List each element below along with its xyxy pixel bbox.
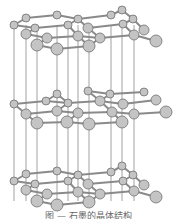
carbon-atom xyxy=(139,25,149,35)
bond xyxy=(110,92,144,94)
carbon-atom xyxy=(64,99,72,107)
carbon-atom xyxy=(129,109,139,119)
carbon-atom xyxy=(140,88,148,96)
carbon-atom xyxy=(107,168,115,176)
carbon-atom xyxy=(118,99,128,109)
carbon-atom xyxy=(150,35,162,47)
carbon-atom xyxy=(51,43,63,55)
carbon-atom xyxy=(42,33,52,43)
carbon-atom xyxy=(64,177,72,185)
carbon-atom xyxy=(95,189,105,199)
carbon-atom xyxy=(10,21,18,29)
carbon-atom xyxy=(22,14,30,22)
layer-middle xyxy=(10,87,172,130)
carbon-atom xyxy=(73,108,83,118)
carbon-atom xyxy=(61,116,73,128)
bond xyxy=(26,171,57,174)
carbon-atom xyxy=(53,90,61,98)
carbon-atom xyxy=(31,117,43,129)
carbon-atom xyxy=(139,180,149,190)
carbon-atom xyxy=(31,39,43,51)
carbon-atom xyxy=(21,185,31,195)
carbon-atom xyxy=(31,195,43,207)
carbon-atom xyxy=(53,11,61,19)
bond xyxy=(35,181,68,184)
carbon-atom xyxy=(116,116,128,128)
carbon-atom xyxy=(64,21,72,29)
carbon-atom xyxy=(95,33,105,43)
carbon-atom xyxy=(10,177,18,185)
carbon-atom xyxy=(31,24,39,32)
carbon-atom xyxy=(118,162,126,170)
carbon-atom xyxy=(73,31,83,41)
carbon-atom xyxy=(107,107,117,117)
carbon-atom xyxy=(95,96,105,106)
bond xyxy=(78,15,111,19)
carbon-layers xyxy=(10,6,172,211)
carbon-atom xyxy=(53,167,61,175)
carbon-atom xyxy=(83,118,95,130)
carbon-atom xyxy=(119,20,127,28)
carbon-atom xyxy=(118,6,126,14)
carbon-atom xyxy=(74,15,82,23)
carbon-atom xyxy=(83,23,93,33)
carbon-atom xyxy=(107,11,115,19)
carbon-atom xyxy=(21,29,31,39)
carbon-atom xyxy=(83,196,95,208)
carbon-atom xyxy=(83,40,95,52)
carbon-atom xyxy=(129,186,139,196)
layer-bottom xyxy=(10,162,162,211)
carbon-atom xyxy=(129,30,139,40)
carbon-atom xyxy=(84,87,92,95)
figure-caption: 图 — 石墨的晶体结构 xyxy=(0,211,177,219)
carbon-atom xyxy=(119,177,127,185)
carbon-atom xyxy=(150,191,162,203)
carbon-atom xyxy=(21,109,31,119)
bond xyxy=(78,172,111,175)
bond xyxy=(14,101,46,104)
carbon-atom xyxy=(106,90,114,98)
carbon-atom xyxy=(31,180,39,188)
carbon-atom xyxy=(73,187,83,197)
carbon-atom xyxy=(129,171,137,179)
bond xyxy=(35,25,68,28)
bond xyxy=(26,15,57,18)
carbon-atom xyxy=(52,106,62,116)
carbon-atom xyxy=(129,15,137,23)
carbon-atom xyxy=(83,179,93,189)
carbon-atom xyxy=(22,170,30,178)
carbon-atom xyxy=(42,97,50,105)
carbon-atom xyxy=(51,199,63,211)
carbon-atom xyxy=(74,171,82,179)
graphite-crystal-structure-diagram xyxy=(0,0,177,219)
carbon-atom xyxy=(151,95,161,105)
carbon-atom xyxy=(42,189,52,199)
layer-top xyxy=(10,6,162,55)
carbon-atom xyxy=(10,100,18,108)
carbon-atom xyxy=(160,106,172,118)
